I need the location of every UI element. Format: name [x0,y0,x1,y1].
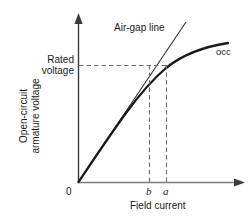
x-tick-label-b: b [146,186,152,197]
origin-label: 0 [66,186,72,197]
occ-curve-label: occ [216,46,231,57]
x-axis-title: Field current [130,200,186,211]
rated-voltage-label-line1: Rated [26,54,74,65]
x-tick-label-a: a [163,186,169,197]
figure-container: Open-circuit armature voltage Rated volt… [0,0,251,219]
air-gap-line-label: Air-gap line [114,22,165,33]
rated-voltage-label-line2: voltage [26,65,74,76]
rated-voltage-label: Rated voltage [26,54,74,76]
